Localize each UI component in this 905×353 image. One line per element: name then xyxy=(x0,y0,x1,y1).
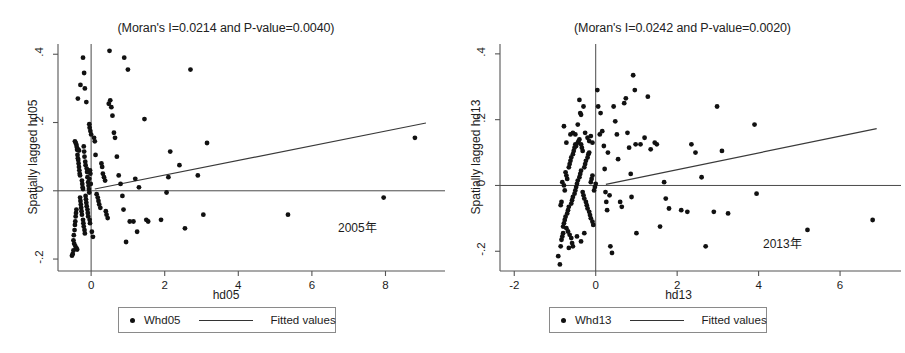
y-tick-label: 0 xyxy=(475,170,487,196)
scatter-point xyxy=(77,148,82,153)
scatter-point xyxy=(662,180,667,185)
scatter-point xyxy=(177,163,182,168)
scatter-point xyxy=(588,134,593,139)
scatter-point xyxy=(105,216,110,221)
scatter-point xyxy=(556,254,561,259)
scatter-point xyxy=(82,231,87,236)
scatter-point xyxy=(699,175,704,180)
scatter-point xyxy=(627,145,632,150)
scatter-point xyxy=(582,231,587,236)
scatter-point xyxy=(91,234,96,239)
scatter-point xyxy=(663,196,668,201)
scatter-point xyxy=(625,130,630,135)
legend-marker-label: Whd13 xyxy=(575,314,611,326)
scatter-point xyxy=(133,176,138,181)
scatter-point xyxy=(607,193,612,198)
scatter-point xyxy=(135,229,140,234)
scatter-point xyxy=(82,86,87,91)
scatter-point xyxy=(590,173,595,178)
scatter-point xyxy=(685,209,690,214)
scatter-point xyxy=(591,223,596,228)
scatter-point xyxy=(121,207,126,212)
scatter-point xyxy=(601,144,606,149)
scatter-point xyxy=(201,212,206,217)
scatter-point xyxy=(126,67,131,72)
x-tick-label: 0 xyxy=(583,279,609,291)
scatter-point xyxy=(679,208,684,213)
scatter-point xyxy=(558,244,563,249)
y-tick-label: .2 xyxy=(33,108,45,134)
scatter-point xyxy=(577,137,582,142)
scatter-point xyxy=(561,231,566,236)
scatter-point xyxy=(805,227,810,232)
x-tick-label: 2 xyxy=(664,279,690,291)
scatter-point xyxy=(577,98,582,103)
scatter-point xyxy=(632,88,637,93)
scatter-point xyxy=(80,212,85,217)
scatter-point xyxy=(564,140,569,145)
scatter-point xyxy=(622,101,627,106)
scatter-point xyxy=(88,221,93,226)
scatter-point xyxy=(565,176,570,181)
legend-marker-label: Whd05 xyxy=(144,314,180,326)
scatter-point xyxy=(72,228,77,233)
scatter-point xyxy=(108,98,113,103)
scatter-point xyxy=(188,67,193,72)
scatter-point xyxy=(131,219,136,224)
y-axis-label-2005: Spatially lagged hd05 xyxy=(26,77,40,237)
scatter-point xyxy=(715,104,720,109)
scatter-point xyxy=(120,194,125,199)
scatter-point xyxy=(602,167,607,172)
scatter-point xyxy=(614,132,619,137)
scatter-point xyxy=(142,117,147,122)
scatter-point xyxy=(78,83,83,88)
legend-fitted-line-icon xyxy=(630,320,684,321)
scatter-point xyxy=(726,211,731,216)
scatter-point xyxy=(618,200,623,205)
scatter-point xyxy=(642,135,647,140)
scatter-point xyxy=(74,207,79,212)
scatter-point xyxy=(579,112,584,117)
scatter-point xyxy=(183,226,188,231)
scatter-point xyxy=(571,244,576,249)
scatter-point xyxy=(109,105,114,110)
scatter-point xyxy=(638,142,643,147)
legend-2005: Whd05 Fitted values xyxy=(118,307,336,333)
scatter-series-Whd13 xyxy=(556,73,875,267)
scatter-point xyxy=(114,154,119,159)
scatter-point xyxy=(667,206,672,211)
scatter-point xyxy=(166,175,171,180)
legend-marker-dot-icon xyxy=(130,318,135,323)
year-annotation-2013: 2013年 xyxy=(763,234,802,251)
scatter-point xyxy=(81,187,86,192)
scatter-point xyxy=(605,208,610,213)
scatter-point xyxy=(562,124,567,129)
x-tick-label: 4 xyxy=(225,279,251,291)
scatter-point xyxy=(168,149,173,154)
scatter-point xyxy=(116,173,121,178)
scatter-point xyxy=(205,141,210,146)
scatter-point xyxy=(137,185,142,190)
scatter-point xyxy=(752,122,757,127)
scatter-point xyxy=(579,239,584,244)
scatter-point xyxy=(93,153,98,158)
scatter-point xyxy=(112,130,117,135)
scatter-point xyxy=(557,262,562,267)
legend-marker-dot-icon xyxy=(561,318,566,323)
scatter-point xyxy=(703,244,708,249)
legend-2013: Whd13 Fitted values xyxy=(549,307,767,333)
scatter-point xyxy=(118,182,123,187)
panel-2005: (Moran's I=0.0214 and P-value=0.0040) Sp… xyxy=(0,0,452,353)
scatter-point xyxy=(616,157,621,162)
scatter-point xyxy=(146,219,151,224)
scatter-point xyxy=(587,150,592,155)
scatter-point xyxy=(629,195,634,200)
scatter-point xyxy=(689,142,694,147)
scatter-point xyxy=(562,188,567,193)
scatter-point xyxy=(81,144,86,149)
y-tick-label: .4 xyxy=(33,39,45,65)
scatter-point xyxy=(603,190,608,195)
scatter-point xyxy=(606,150,611,155)
scatter-point xyxy=(648,147,653,152)
scatter-point xyxy=(596,104,601,109)
